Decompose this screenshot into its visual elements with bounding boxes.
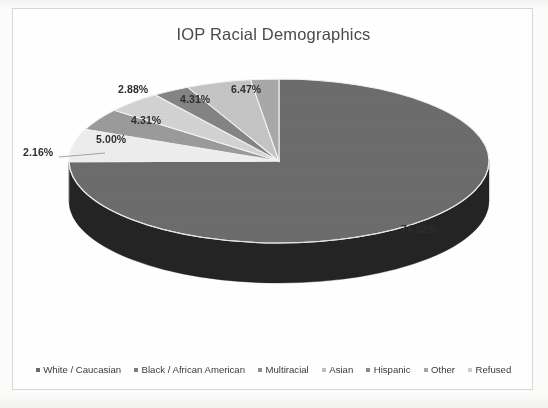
legend-item-asian[interactable]: Asian	[322, 364, 354, 375]
legend-label-asian: Asian	[329, 364, 353, 375]
legend-swatch-black-african-american	[134, 368, 138, 372]
legend-item-refused[interactable]: Refused	[468, 364, 511, 375]
legend-swatch-other	[424, 368, 428, 372]
legend-item-other[interactable]: Other	[424, 364, 456, 375]
legend-label-black-african-american: Black / African American	[142, 364, 245, 375]
legend-item-hispanic[interactable]: Hispanic	[366, 364, 410, 375]
legend-swatch-hispanic	[366, 368, 370, 372]
legend-label-multiracial: Multiracial	[266, 364, 309, 375]
legend-label-other: Other	[431, 364, 455, 375]
legend-swatch-white-caucasian	[36, 368, 40, 372]
legend-item-multiracial[interactable]: Multiracial	[258, 364, 309, 375]
chart-frame: IOP Racial Demographics 2.88% 4.31% 6.47…	[12, 8, 533, 390]
legend-label-hispanic: Hispanic	[374, 364, 411, 375]
legend-item-black-african-american[interactable]: Black / African American	[134, 364, 245, 375]
legend-label-white-caucasian: White / Caucasian	[43, 364, 121, 375]
legend-swatch-refused	[468, 368, 472, 372]
legend-swatch-asian	[322, 368, 326, 372]
legend-label-refused: Refused	[476, 364, 512, 375]
chart-legend: White / Caucasian Black / African Americ…	[13, 364, 534, 375]
legend-item-white-caucasian[interactable]: White / Caucasian	[36, 364, 121, 375]
legend-swatch-multiracial	[258, 368, 262, 372]
leader-line-refused	[13, 9, 534, 369]
